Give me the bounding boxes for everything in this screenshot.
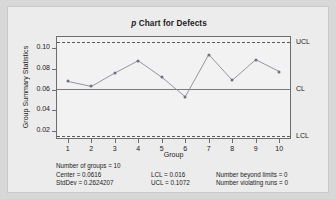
y-axis-tick-label: 0.06 xyxy=(36,85,50,92)
footer-column-violations: Number beyond limits = 0Number violating… xyxy=(216,171,288,188)
y-axis: Group Summary Statistics 0.020.040.060.0… xyxy=(8,36,56,139)
y-axis-tick-label: 0.08 xyxy=(36,64,50,71)
control-limit-label-lcl: LCL xyxy=(296,131,309,138)
data-point[interactable] xyxy=(207,53,210,56)
footer-stat-line: Number violating runs = 0 xyxy=(216,179,288,188)
x-axis-tick-mark xyxy=(68,139,69,143)
data-point[interactable] xyxy=(160,76,163,79)
data-point[interactable] xyxy=(231,79,234,82)
x-axis-tick-mark xyxy=(209,139,210,143)
x-axis-tick-mark xyxy=(162,139,163,143)
footer-stat-line: Center = 0.0616 xyxy=(56,171,121,180)
y-axis-tick-label: 0.10 xyxy=(36,43,50,50)
data-point[interactable] xyxy=(90,85,93,88)
data-point[interactable] xyxy=(66,80,69,83)
footer-stat-line: UCL = 0.1072 xyxy=(151,179,190,188)
y-axis-tick-label: 0.02 xyxy=(36,126,50,133)
data-series xyxy=(56,36,291,139)
chart-card: p Chart for Defects Group Summary Statis… xyxy=(7,6,329,193)
y-axis-label: Group Summary Statistics xyxy=(22,33,30,141)
footer-stat-line: LCL = 0.016 xyxy=(151,171,190,180)
chart-page: p Chart for Defects Group Summary Statis… xyxy=(0,0,336,199)
chart-title-rest: Chart for Defects xyxy=(136,19,207,28)
data-point[interactable] xyxy=(254,58,257,61)
data-point[interactable] xyxy=(137,59,140,62)
y-axis-tick-label: 0.04 xyxy=(36,105,50,112)
data-point[interactable] xyxy=(184,95,187,98)
data-point[interactable] xyxy=(278,70,281,73)
x-axis-label: Group xyxy=(56,151,291,159)
chart-footer: Number of groups = 10Center = 0.0616StdD… xyxy=(8,162,330,192)
x-axis-tick-mark xyxy=(115,139,116,143)
control-limit-label-ucl: UCL xyxy=(296,37,310,44)
x-axis-tick-mark xyxy=(256,139,257,143)
footer-stat-line: Number of groups = 10 xyxy=(56,162,121,171)
footer-column-limits: LCL = 0.016UCL = 0.1072 xyxy=(151,171,190,188)
control-limit-labels: UCLCLLCL xyxy=(293,36,333,139)
data-point[interactable] xyxy=(113,72,116,75)
footer-stat-line: StdDev = 0.2624207 xyxy=(56,179,121,188)
control-limit-label-cl: CL xyxy=(296,84,305,91)
x-axis-tick-mark xyxy=(185,139,186,143)
chart-title: p Chart for Defects xyxy=(8,19,330,28)
x-axis-tick-mark xyxy=(279,139,280,143)
footer-stat-line: Number beyond limits = 0 xyxy=(216,171,288,180)
x-axis-tick-mark xyxy=(232,139,233,143)
x-axis-tick-mark xyxy=(138,139,139,143)
x-axis-tick-mark xyxy=(91,139,92,143)
footer-column-summary: Number of groups = 10Center = 0.0616StdD… xyxy=(56,162,121,188)
